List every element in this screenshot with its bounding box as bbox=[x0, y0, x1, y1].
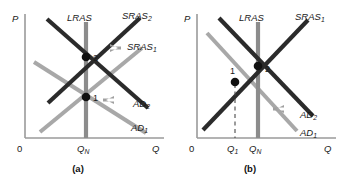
curve-label-sras1-panel-b: SRAS1 bbox=[295, 11, 325, 23]
equilibrium-point-1-panel-b bbox=[231, 78, 240, 87]
origin-label-panel-b: 0 bbox=[189, 143, 194, 154]
svg-text:QN: QN bbox=[249, 143, 261, 155]
curve-sras1-panel-b bbox=[203, 20, 308, 130]
svg-text:Q1: Q1 bbox=[227, 143, 238, 155]
panel-caption-a: (a) bbox=[72, 163, 84, 174]
x-tick-qn-panel-a: QN bbox=[77, 143, 89, 155]
curve-label-ad2-panel-b: AD2 bbox=[299, 109, 317, 121]
curve-label-ad1-panel-a: AD1 bbox=[130, 122, 148, 134]
svg-text:QN: QN bbox=[77, 143, 89, 155]
x-axis-label-panel-b: Q bbox=[324, 143, 332, 154]
panel-b: 1 2 P Q 0 Q1 QN LRAS SRAS1 AD2 bbox=[172, 0, 344, 179]
equilibrium-point-2-panel-a bbox=[82, 53, 91, 62]
x-tick-qn-panel-b: QN bbox=[249, 143, 261, 155]
panel-caption-b: (b) bbox=[244, 163, 256, 174]
x-axis-label-panel-a: Q bbox=[152, 143, 160, 154]
curve-label-ad2-panel-a: AD2 bbox=[132, 98, 150, 110]
point-1-label-panel-b: 1 bbox=[230, 66, 235, 76]
equilibrium-point-1-panel-a bbox=[82, 93, 91, 102]
y-axis-label-panel-b: P bbox=[184, 13, 191, 24]
point-2-label-panel-b: 2 bbox=[265, 64, 270, 74]
curve-label-lras-panel-b: LRAS bbox=[239, 12, 264, 23]
x-tick-q1-panel-b: Q1 bbox=[227, 143, 238, 155]
panel-a: 2 1 P Q 0 QN LRAS SRAS2 SRAS1 AD2 AD1 bbox=[0, 0, 172, 179]
curve-label-ad1-panel-b: AD1 bbox=[299, 127, 317, 139]
figure-container: 2 1 P Q 0 QN LRAS SRAS2 SRAS1 AD2 AD1 bbox=[0, 0, 344, 179]
sras-shift-arrow-panel-a bbox=[110, 44, 121, 52]
ad-shift-arrow-panel-a bbox=[103, 96, 114, 104]
curve-label-lras-panel-a: LRAS bbox=[67, 12, 92, 23]
curve-label-sras1-panel-a: SRAS1 bbox=[127, 41, 157, 53]
axes-panel-a bbox=[25, 14, 164, 138]
y-axis-label-panel-a: P bbox=[12, 13, 19, 24]
point-2-label-panel-a: 2 bbox=[93, 53, 98, 63]
equilibrium-point-2-panel-b bbox=[254, 62, 263, 71]
origin-label-panel-a: 0 bbox=[17, 143, 22, 154]
point-1-label-panel-a: 1 bbox=[93, 93, 98, 103]
curve-label-sras2-panel-a: SRAS2 bbox=[122, 10, 152, 22]
